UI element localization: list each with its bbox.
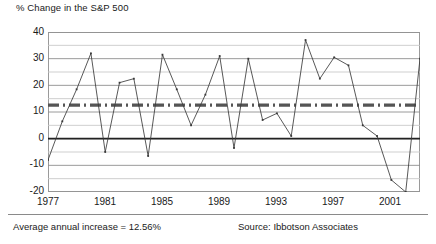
x-axis-tick-1997: 1997 bbox=[311, 196, 355, 207]
data-point-markers bbox=[48, 39, 420, 192]
y-axis-tick-10: 10 bbox=[4, 106, 44, 116]
x-axis-tick-2001: 2001 bbox=[368, 196, 412, 207]
y-axis-tick-neg10: -10 bbox=[4, 159, 44, 169]
y-axis-tick-40: 40 bbox=[4, 27, 44, 37]
x-axis-tick-1985: 1985 bbox=[140, 196, 184, 207]
y-axis-tick-neg20: -20 bbox=[4, 186, 44, 196]
average-annual-increase-note: Average annual increase = 12.56% bbox=[13, 221, 161, 233]
y-axis-tick-0: 0 bbox=[4, 133, 44, 143]
footer-divider bbox=[8, 214, 428, 215]
x-axis-tick-1977: 1977 bbox=[26, 196, 70, 207]
chart-title: % Change in the S&P 500 bbox=[16, 2, 129, 14]
x-axis-tick-1989: 1989 bbox=[197, 196, 241, 207]
data-series-line bbox=[48, 40, 420, 192]
gridlines bbox=[48, 32, 420, 192]
plot-canvas bbox=[48, 32, 420, 192]
y-axis-tick-20: 20 bbox=[4, 80, 44, 90]
x-axis-tick-1993: 1993 bbox=[254, 196, 298, 207]
source-note: Source: Ibbotson Associates bbox=[238, 221, 358, 233]
x-axis-tick-1981: 1981 bbox=[83, 196, 127, 207]
y-axis-tick-30: 30 bbox=[4, 53, 44, 63]
plot-area bbox=[48, 32, 420, 192]
chart-figure: % Change in the S&P 500 40 30 20 10 0 -1… bbox=[0, 0, 436, 244]
